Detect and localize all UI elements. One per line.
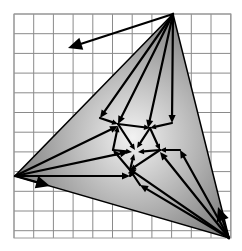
arrow-shaft [144,150,160,151]
arrow-shaft [172,14,173,115]
arrow-shaft [130,174,131,176]
arrow-shaft [113,150,126,151]
diagram-canvas [0,0,242,251]
arrowhead-icon [68,38,83,50]
shaded-triangle [15,14,229,238]
triangle-arrow-diagram [0,0,242,251]
